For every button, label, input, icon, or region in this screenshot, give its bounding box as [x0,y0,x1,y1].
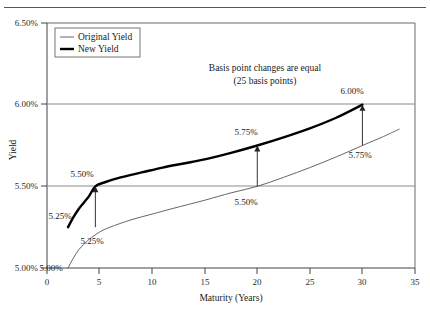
legend-label-original-yield: Original Yield [78,32,133,42]
chart-figure: 6.50% 6.00% 5.50% 5.00% Yield 0 5 10 15 … [0,0,430,312]
y-tick-label-6.50: 6.50% [15,18,39,28]
x-tick-label-10: 10 [148,277,158,287]
chart-legend: Original Yield New Yield [55,28,140,57]
x-tick-label-5: 5 [97,277,102,287]
label-arrow1-top: 5.50% [70,169,94,179]
y-axis-ticks [41,23,47,268]
gridlines-horizontal [47,104,415,186]
label-arrow2-bottom: 5.50% [234,197,258,207]
x-axis-title: Maturity (Years) [199,293,262,304]
label-original-yield-start: 5.00% [39,263,63,273]
label-arrow3-top: 6.00% [340,86,364,96]
x-tick-label-35: 35 [411,277,421,287]
data-point-labels: 5.25%5.00%5.50%5.25%5.75%5.50%6.00%5.75% [39,86,372,273]
x-tick-label-25: 25 [306,277,316,287]
yield-curve-chart: 6.50% 6.00% 5.50% 5.00% Yield 0 5 10 15 … [0,0,430,312]
x-tick-label-15: 15 [201,277,211,287]
plot-frame [47,23,415,268]
annotation-line-2: (25 basis points) [234,76,297,87]
y-tick-label-6.00: 6.00% [15,99,39,109]
series-line-new-yield [68,105,362,228]
y-tick-label-5.50: 5.50% [15,181,39,191]
x-tick-label-30: 30 [358,277,368,287]
legend-label-new-yield: New Yield [78,44,119,54]
x-axis-ticks [47,268,415,274]
x-tick-label-0: 0 [45,277,50,287]
y-axis-title: Yield [8,139,18,160]
label-arrow1-bottom: 5.25% [80,236,104,246]
label-arrow3-bottom: 5.75% [348,150,372,160]
annotation-line-1: Basis point changes are equal [209,63,322,73]
x-tick-label-20: 20 [253,277,263,287]
label-new-yield-start: 5.25% [48,211,72,221]
y-tick-label-5.00: 5.00% [15,263,39,273]
label-arrow2-top: 5.75% [234,127,258,137]
